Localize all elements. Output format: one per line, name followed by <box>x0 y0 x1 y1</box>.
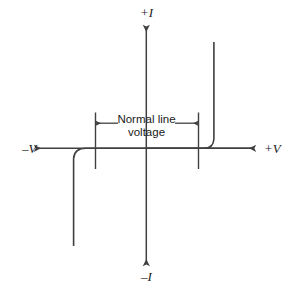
annotation-text-group: Normal line voltage <box>117 113 175 138</box>
axis-label-negative-voltage: –V <box>21 141 39 156</box>
axis-group <box>38 29 252 262</box>
axis-label-positive-voltage: +V <box>264 141 283 156</box>
axis-label-negative-current: –I <box>140 269 153 284</box>
reverse-breakdown-curve <box>74 148 146 246</box>
annotation-line-1: Normal line <box>117 113 175 125</box>
iv-characteristic-figure: Normal line voltage +I –I –V +V <box>0 0 287 289</box>
annotation-line-2: voltage <box>128 126 165 138</box>
characteristic-curve-group <box>74 42 214 246</box>
iv-characteristic-svg: Normal line voltage +I –I –V +V <box>0 0 287 289</box>
axis-label-group: +I –I –V +V <box>21 5 283 284</box>
axis-label-positive-current: +I <box>140 5 154 20</box>
